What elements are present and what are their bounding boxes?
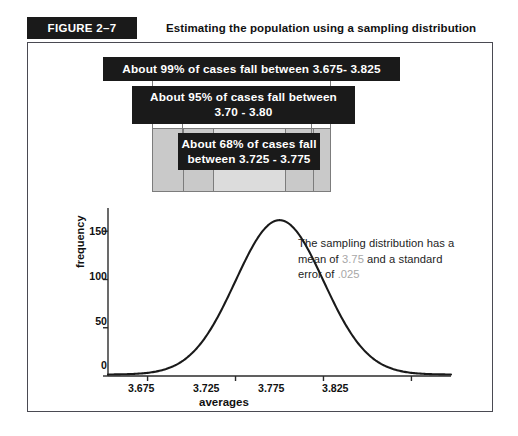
callout-99-percent: About 99% of cases fall between 3.675- 3… (103, 57, 400, 81)
y-tick-label-50: 50 (85, 315, 107, 327)
callout-68-line2: between 3.725 - 3.775 (187, 152, 310, 167)
x-tick-label-3775: 3.775 (258, 382, 285, 394)
y-tick-label-150: 150 (78, 225, 107, 237)
figure-caption: Estimating the population using a sampli… (166, 17, 476, 39)
y-tick-label-0: 0 (85, 359, 107, 371)
annotation-se-value: .025 (338, 268, 360, 280)
plot-axes (103, 208, 451, 381)
stem-95-right (311, 124, 312, 133)
annotation-mean-value: 3.75 (342, 253, 364, 265)
stem-95-left (182, 124, 183, 133)
figure-header: FIGURE 2–7 Estimating the population usi… (27, 17, 493, 39)
y-axis-label: frequency (74, 215, 86, 268)
figure-number-badge: FIGURE 2–7 (27, 17, 137, 39)
callout-95-percent: About 95% of cases fall between 3.70 - 3… (132, 86, 355, 124)
callout-68-percent: About 68% of cases fall between 3.725 - … (178, 133, 320, 170)
callout-95-line2: 3.70 - 3.80 (214, 105, 272, 120)
x-tick-label-3675: 3.675 (128, 382, 155, 394)
y-tick-label-100: 100 (78, 270, 107, 282)
x-tick-label-3825: 3.825 (322, 382, 349, 394)
x-axis-label: averages (199, 396, 249, 408)
x-tick-label-3725: 3.725 (193, 382, 220, 394)
distribution-annotation: The sampling distribution has a mean of … (298, 236, 458, 283)
callout-95-line1: About 95% of cases fall between (150, 90, 337, 105)
callout-99-line1: About 99% of cases fall between 3.675- 3… (122, 62, 380, 77)
callout-68-line1: About 68% of cases fall (181, 137, 316, 152)
